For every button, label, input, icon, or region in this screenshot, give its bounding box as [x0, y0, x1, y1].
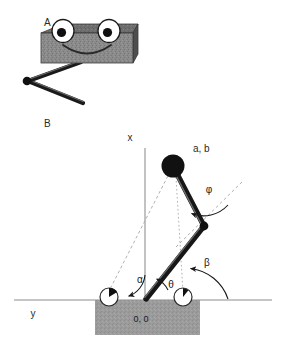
phi-angle-label: φ — [206, 184, 213, 195]
panel-a-group — [23, 20, 138, 104]
eye-right-pupil — [103, 28, 112, 37]
panel-b-group: x y a, b 0, 0 α β θ φ — [14, 132, 272, 335]
figure-canvas: x y a, b 0, 0 α β θ φ — [0, 0, 282, 354]
foot-left — [100, 288, 118, 306]
origin-label: 0, 0 — [133, 314, 148, 324]
knee-joint — [200, 222, 209, 231]
panel-a-leg-lower — [28, 81, 83, 103]
alpha-angle-label: α — [137, 274, 143, 285]
panel-a-leg-lower-highlight — [29, 80, 84, 102]
beta-reference-dotted-line — [176, 177, 183, 292]
beta-angle-arc — [191, 269, 229, 300]
panel-a-leg-upper — [28, 62, 81, 81]
panel-a-pivot-joint — [23, 77, 32, 86]
beta-angle-label: β — [204, 257, 210, 268]
panel-a-leg-upper-highlight — [28, 61, 81, 80]
eye-left-pupil — [57, 28, 66, 37]
mass-point-label: a, b — [193, 143, 210, 154]
x-axis-label: x — [128, 132, 133, 143]
foot-right — [174, 288, 192, 306]
panel-a-eye-left — [52, 20, 74, 43]
scientific-figure: A B — [0, 0, 282, 354]
mass-point-ab — [162, 155, 185, 178]
y-axis-label: y — [31, 308, 36, 319]
panel-a-eye-right — [98, 20, 120, 43]
lower-limb-segment — [146, 226, 204, 299]
theta-angle-label: θ — [168, 279, 174, 290]
